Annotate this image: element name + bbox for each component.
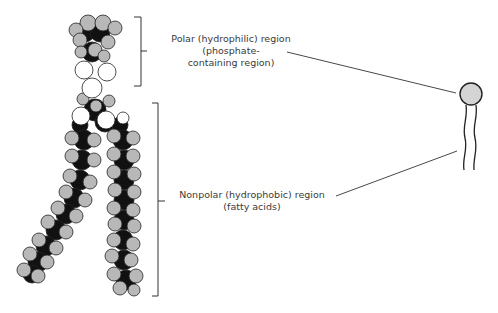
- polar-label-line3: containing region): [156, 57, 306, 69]
- nonpolar-leader-line: [336, 151, 457, 196]
- nonpolar-region-bracket: [152, 103, 165, 296]
- phospholipid-space-filling-model-icon: [17, 15, 143, 296]
- polar-label-line1: Polar (hydrophilic) region: [156, 33, 306, 45]
- nonpolar-region-label: Nonpolar (hydrophobic) region (fatty aci…: [172, 189, 332, 213]
- nonpolar-label-line1: Nonpolar (hydrophobic) region: [172, 189, 332, 201]
- nonpolar-label-line2: (fatty acids): [172, 201, 332, 213]
- polar-region-bracket: [134, 17, 147, 86]
- phospholipid-schematic-icon: [460, 83, 482, 170]
- polar-region-label: Polar (hydrophilic) region (phosphate- c…: [156, 33, 306, 69]
- polar-label-line2: (phosphate-: [156, 45, 306, 57]
- polar-leader-line: [287, 52, 456, 93]
- phospholipid-diagram: Polar (hydrophilic) region (phosphate- c…: [0, 0, 498, 313]
